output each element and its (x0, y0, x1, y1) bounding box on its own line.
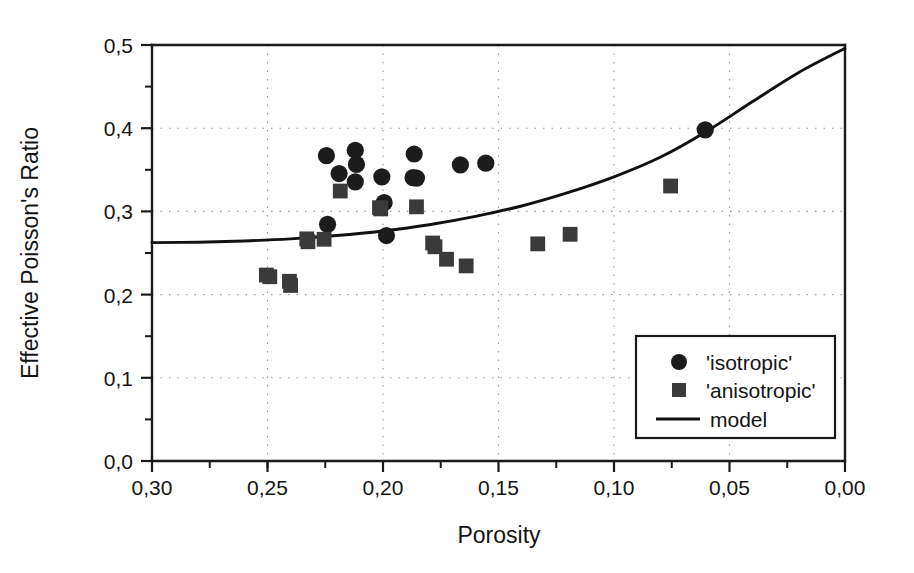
y-tick-label: 0,3 (104, 200, 133, 223)
data-point-anisotropic (317, 232, 332, 247)
data-point-isotropic (319, 216, 336, 233)
data-point-anisotropic (563, 227, 578, 242)
x-tick-label: 0,10 (594, 476, 635, 499)
data-point-anisotropic (373, 202, 388, 217)
data-point-anisotropic (663, 179, 678, 194)
scatter-plot-svg: 0,300,250,200,150,100,050,000,00,10,20,3… (0, 0, 914, 573)
x-tick-label: 0,25 (247, 476, 288, 499)
data-markers (259, 121, 714, 293)
x-tick-label: 0,15 (478, 476, 519, 499)
data-point-anisotropic (459, 259, 474, 274)
y-tick-label: 0,4 (104, 117, 134, 140)
y-axis-title: Effective Poisson's Ratio (17, 127, 43, 379)
data-point-isotropic (318, 147, 335, 164)
data-point-isotropic (348, 156, 365, 173)
data-point-isotropic (331, 165, 348, 182)
data-point-isotropic (452, 156, 469, 173)
legend-circle-icon (671, 354, 687, 370)
legend[interactable]: 'isotropic' 'anisotropic' model (636, 336, 835, 438)
data-point-isotropic (408, 170, 425, 187)
data-point-anisotropic (301, 234, 316, 249)
data-point-anisotropic (333, 184, 348, 199)
data-point-anisotropic (262, 269, 277, 284)
series-anisotropic (259, 179, 678, 293)
data-point-isotropic (406, 145, 423, 162)
data-point-isotropic (697, 121, 714, 138)
legend-label-model: model (710, 408, 767, 431)
x-tick-label: 0,30 (132, 476, 173, 499)
data-point-isotropic (347, 173, 364, 190)
y-tick-label: 0,0 (104, 450, 133, 473)
x-tick-label: 0,05 (709, 476, 750, 499)
x-tick-label: 0,00 (825, 476, 866, 499)
x-axis-title: Porosity (457, 522, 541, 548)
legend-label-anisotropic: 'anisotropic' (706, 379, 816, 402)
y-tick-label: 0,1 (104, 367, 133, 390)
model-curve-group (152, 48, 845, 242)
data-point-anisotropic (283, 278, 298, 293)
legend-square-icon (672, 383, 686, 397)
data-point-anisotropic (439, 252, 454, 267)
chart-figure: 0,300,250,200,150,100,050,000,00,10,20,3… (0, 0, 914, 573)
y-tick-label: 0,5 (104, 34, 133, 57)
data-point-anisotropic (530, 236, 545, 251)
data-point-anisotropic (409, 199, 424, 214)
y-tick-label: 0,2 (104, 284, 133, 307)
legend-label-isotropic: 'isotropic' (706, 351, 792, 374)
data-point-isotropic (477, 155, 494, 172)
series-isotropic (318, 121, 714, 244)
x-tick-label: 0,20 (363, 476, 404, 499)
data-point-isotropic (378, 227, 395, 244)
data-point-isotropic (373, 168, 390, 185)
model-curve (152, 48, 845, 242)
